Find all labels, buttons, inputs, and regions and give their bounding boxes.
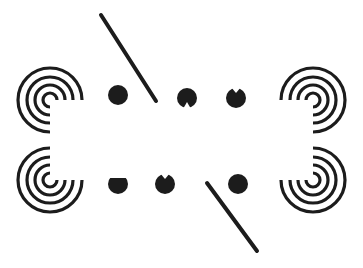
dot-top-1 xyxy=(108,85,128,105)
spiral-arc xyxy=(298,85,328,115)
lines-group xyxy=(101,15,257,251)
abstract-figure xyxy=(0,0,363,268)
spiral-arc xyxy=(35,165,65,195)
spiral-arc xyxy=(306,93,320,107)
spiral-arc xyxy=(306,173,320,187)
spirals-group xyxy=(18,68,345,212)
dot-top-3 xyxy=(226,87,246,108)
spiral-top-right xyxy=(281,68,345,132)
spiral-arc xyxy=(298,165,328,195)
spiral-bottom-right xyxy=(281,148,345,212)
diagonal-line-top xyxy=(101,15,156,101)
spiral-bottom-left xyxy=(18,148,82,212)
spiral-arc xyxy=(35,85,65,115)
dot-bottom-3 xyxy=(228,174,248,194)
spiral-arc xyxy=(43,173,57,187)
spiral-top-left xyxy=(18,68,82,132)
dot-top-2 xyxy=(177,88,197,109)
spiral-arc xyxy=(43,93,57,107)
dots-group xyxy=(107,85,248,194)
dot-bottom-1 xyxy=(107,172,129,194)
dot-bottom-2 xyxy=(155,173,175,194)
diagonal-line-bottom xyxy=(207,183,257,251)
